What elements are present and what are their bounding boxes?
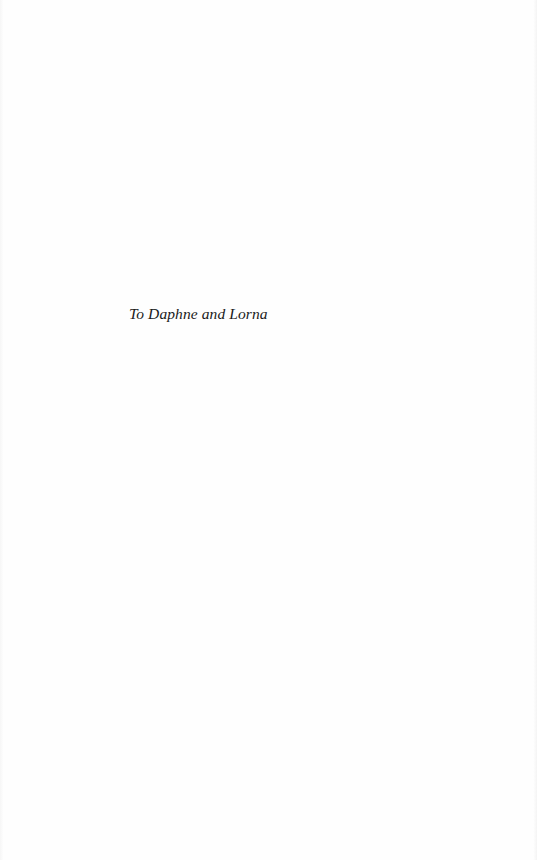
page-edge-right — [533, 0, 537, 860]
page-edge-left — [0, 0, 4, 860]
dedication-text: To Daphne and Lorna — [129, 305, 268, 323]
book-page: To Daphne and Lorna — [0, 0, 537, 860]
